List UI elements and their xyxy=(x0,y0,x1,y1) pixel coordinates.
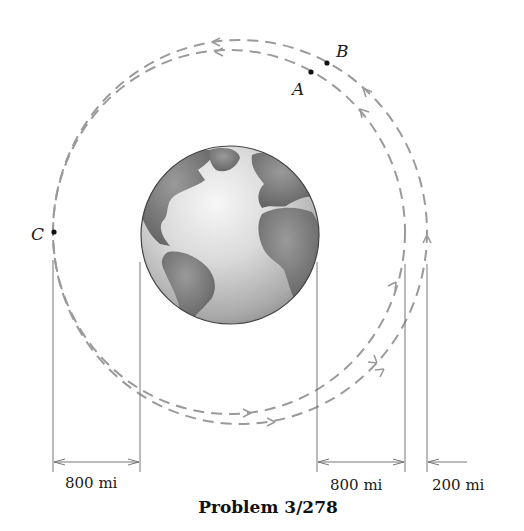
arrow-up-right-icon xyxy=(375,369,384,377)
point-c xyxy=(51,229,56,234)
orbit-diagram: A B C 800 mi 800 mi 200 mi xyxy=(0,0,524,531)
arrow-up-right-icon xyxy=(388,282,396,291)
point-b xyxy=(324,60,329,65)
arrow-right-icon xyxy=(243,409,251,417)
label-c: C xyxy=(31,224,44,244)
arrow-right-icon xyxy=(267,418,275,426)
arrow-up-right-icon xyxy=(368,355,377,363)
dimension-label-right-earth: 800 mi xyxy=(330,476,383,494)
earth-globe xyxy=(141,146,320,324)
point-a xyxy=(308,69,313,74)
label-a: A xyxy=(290,79,304,99)
dimension-label-left: 800 mi xyxy=(65,474,118,492)
dimension-label-right-gap: 200 mi xyxy=(432,476,485,494)
figure-caption: Problem 3/278 xyxy=(6,497,524,517)
arrow-left-icon xyxy=(215,48,223,56)
label-b: B xyxy=(335,41,349,61)
